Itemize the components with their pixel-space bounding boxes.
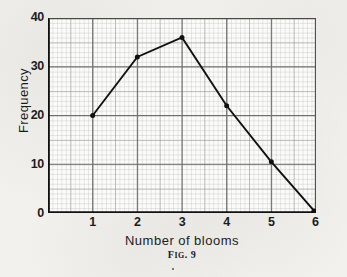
stray-ink-dot bbox=[172, 268, 174, 270]
x-axis-title-word-3: blooms bbox=[194, 233, 239, 248]
x-tick-label-5: 5 bbox=[263, 216, 279, 229]
data-point-2 bbox=[135, 55, 140, 60]
data-point-1 bbox=[90, 113, 95, 118]
figure-caption: FIG. 9 bbox=[48, 249, 316, 260]
plot-area bbox=[48, 18, 316, 213]
figure-container: 40 30 20 10 0 Frequency bbox=[0, 0, 347, 277]
x-tick-label-6: 6 bbox=[307, 216, 323, 229]
x-axis-title-word-2: of bbox=[178, 233, 190, 248]
chart-svg bbox=[48, 18, 316, 213]
y-tick-label-40: 40 bbox=[18, 11, 44, 24]
data-point-5 bbox=[269, 159, 274, 164]
y-axis-title: Frequency bbox=[16, 36, 31, 166]
x-tick-label-3: 3 bbox=[174, 216, 190, 229]
x-tick-label-4: 4 bbox=[219, 216, 235, 229]
x-tick-label-1: 1 bbox=[85, 216, 101, 229]
x-tick-label-2: 2 bbox=[129, 216, 145, 229]
figure-caption-number: . 9 bbox=[185, 249, 197, 260]
data-point-4 bbox=[224, 103, 229, 108]
x-axis-title: Numberofblooms bbox=[48, 233, 316, 248]
figure-caption-smallcaps: IG bbox=[174, 251, 184, 260]
x-axis-tick-labels: 1 2 3 4 5 6 bbox=[0, 216, 347, 234]
x-axis-title-word-1: Number bbox=[125, 233, 174, 248]
data-point-3 bbox=[180, 35, 185, 40]
